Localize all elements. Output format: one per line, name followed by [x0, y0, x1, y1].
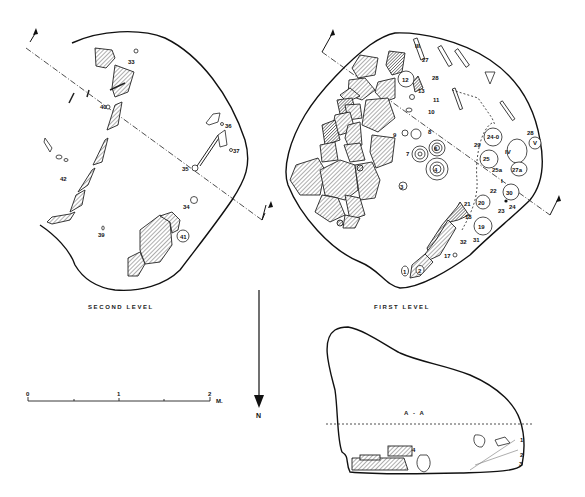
find-label: V	[533, 140, 537, 146]
section-a-a-profile: A - A 4 1 2 3	[326, 327, 532, 474]
section-find-label: 4	[412, 447, 416, 453]
find-36	[221, 123, 224, 126]
find-label: 42	[60, 176, 67, 182]
excavation-plan-diagram: 33 40 36 37 35 34 41 42 39 SECOND LEVEL	[0, 0, 585, 497]
north-arrow: N	[254, 290, 264, 419]
find-object	[44, 138, 52, 152]
section-caption: A - A	[404, 410, 426, 416]
find-label: 32	[460, 239, 467, 245]
find-label: 40	[100, 104, 107, 110]
find-9	[402, 130, 408, 136]
find-8	[411, 129, 421, 139]
find-label: 13	[418, 88, 425, 94]
amphora-vessel	[417, 455, 430, 472]
find-label: 19	[478, 224, 485, 230]
find-33	[134, 49, 138, 53]
scale-unit: M.	[216, 398, 223, 404]
find-label: 37	[233, 148, 240, 154]
wall-stone	[78, 168, 95, 192]
section-line-a-a	[26, 48, 262, 220]
find-label: 27a	[512, 167, 523, 173]
find-label: 30	[506, 190, 513, 196]
scale-bar: 0 1 2 M.	[26, 391, 223, 404]
first-level-plan: III 27 12 28 13 11 10 9 8 6 7 4 3 24-0 2…	[286, 29, 561, 310]
find-label: 21	[464, 201, 471, 207]
find-label: 18	[465, 214, 472, 220]
find-label: 34	[183, 204, 190, 210]
find-object	[485, 72, 495, 84]
find-34	[191, 197, 198, 204]
find-object	[438, 45, 452, 66]
find-label: 12	[402, 77, 409, 83]
find-39	[102, 226, 104, 230]
find-object	[455, 49, 470, 68]
find-10	[406, 108, 412, 112]
large-stone	[140, 215, 172, 264]
find-label: III	[415, 43, 420, 49]
find-label: IV	[505, 149, 511, 155]
find-object	[452, 88, 462, 110]
find-object	[500, 101, 515, 121]
stone-wall	[290, 51, 405, 228]
find-label: 10	[428, 109, 435, 115]
find-label: 11	[433, 97, 440, 103]
stone-block	[360, 455, 380, 460]
section-outline	[327, 327, 524, 474]
pit-boundary	[452, 90, 495, 125]
stone-block	[388, 446, 412, 456]
find-label: 25a	[492, 167, 503, 173]
find-label: 28	[432, 75, 439, 81]
find-label: 39	[98, 232, 105, 238]
find-24	[504, 199, 507, 202]
find-label: 35	[182, 166, 189, 172]
find-label: 17	[444, 253, 451, 259]
find-object	[64, 159, 68, 162]
stone	[95, 48, 115, 68]
find-label: 7	[406, 151, 410, 157]
wall-stone	[47, 212, 75, 224]
section-arrow-icon	[33, 28, 38, 35]
find-11	[410, 95, 415, 100]
find-17	[453, 253, 457, 257]
stone	[112, 65, 134, 97]
find-object	[206, 113, 220, 125]
scale-tick-label: 1	[117, 391, 121, 397]
scale-tick-label: 2	[208, 391, 212, 397]
find-label: 9	[393, 132, 397, 138]
find-object	[218, 130, 227, 147]
wall-stone	[93, 138, 108, 165]
find-label: 28	[527, 130, 534, 136]
wall-stone	[70, 190, 85, 212]
hearth-7	[412, 146, 428, 162]
find-label: 33	[128, 59, 135, 65]
second-level-caption: SECOND LEVEL	[88, 304, 154, 310]
section-arrow-icon	[330, 29, 335, 36]
find-label: 27	[422, 57, 429, 63]
find-label: 41	[180, 234, 187, 240]
find-label: 23	[498, 208, 505, 214]
arrow-down-icon	[254, 395, 264, 408]
find-object	[474, 435, 485, 447]
find-label: 36	[225, 123, 232, 129]
section-arrow-icon	[268, 201, 273, 208]
find-label: 24	[509, 204, 516, 210]
find-label: 31	[473, 237, 480, 243]
find-label: 22	[490, 188, 497, 194]
find-label: 20	[478, 200, 485, 206]
north-label: N	[256, 412, 261, 419]
find-object	[56, 155, 62, 159]
find-label: 25	[483, 156, 490, 162]
second-level-plan: 33 40 36 37 35 34 41 42 39 SECOND LEVEL	[26, 28, 273, 310]
scale-tick-label: 0	[26, 391, 30, 397]
find-label: 29	[474, 142, 481, 148]
find-label: 24-0	[487, 134, 500, 140]
first-level-caption: FIRST LEVEL	[374, 304, 430, 310]
